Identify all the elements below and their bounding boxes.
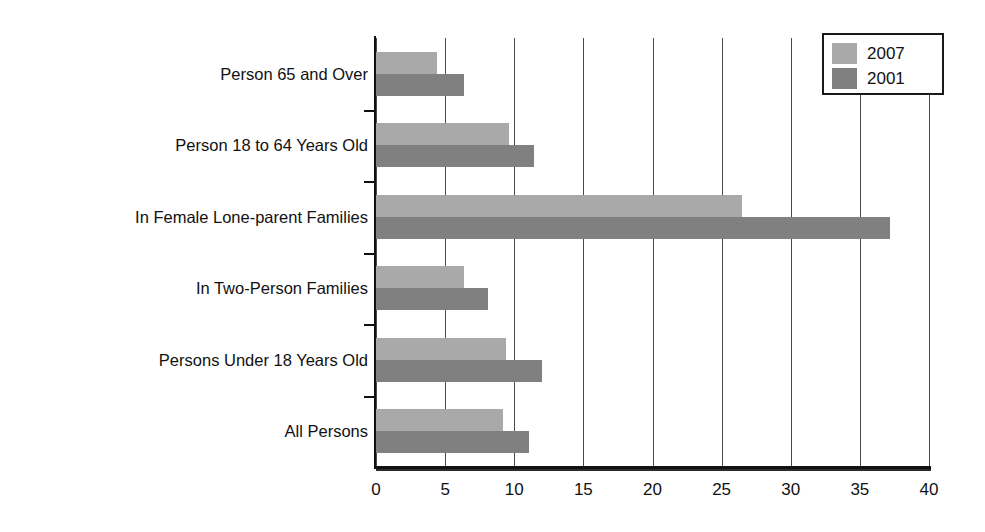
legend-label-2001: 2001 [867,70,905,87]
x-tick-label-0: 0 [356,480,396,500]
category-label-4: Persons Under 18 Years Old [28,351,368,369]
bar-2007-3 [376,266,464,288]
gridline-0 [376,38,377,467]
category-label-3: In Two-Person Families [28,279,368,297]
x-tick-label-35: 35 [840,480,880,500]
category-label-1: Person 18 to 64 Years Old [28,136,368,154]
legend-label-2007: 2007 [867,45,905,62]
category-labels: Person 65 and OverPerson 18 to 64 Years … [20,0,368,532]
legend-swatch-2007 [832,43,857,64]
bar-2007-1 [376,123,509,145]
bar-2001-2 [376,217,890,239]
bar-2007-4 [376,338,506,360]
gridline-35 [860,38,861,467]
legend-entry: 2007 [832,41,942,65]
gridline-10 [514,38,515,467]
bar-2001-0 [376,74,464,96]
gridline-25 [722,38,723,467]
bar-2001-1 [376,145,534,167]
legend: 2007 2001 [822,33,944,95]
legend-swatch-2001 [832,68,857,89]
gridline-40 [929,38,930,467]
bar-2007-0 [376,52,437,74]
x-tick-label-40: 40 [909,480,949,500]
bar-chart: Person 65 and OverPerson 18 to 64 Years … [0,0,985,532]
x-tick-label-15: 15 [563,480,603,500]
x-tick-label-20: 20 [633,480,673,500]
bar-2001-5 [376,431,529,453]
plot-area [376,38,929,467]
x-tick-label-30: 30 [771,480,811,500]
category-label-2: In Female Lone-parent Families [28,208,368,226]
x-axis-line-shadow [376,469,931,471]
gridline-5 [445,38,446,467]
bar-2001-3 [376,288,488,310]
bar-2007-5 [376,409,503,431]
gridline-15 [583,38,584,467]
category-label-0: Person 65 and Over [28,65,368,83]
gridline-30 [791,38,792,467]
bar-2007-2 [376,195,742,217]
x-tick-label-10: 10 [494,480,534,500]
x-tick-label-5: 5 [425,480,465,500]
legend-entry: 2001 [832,66,942,90]
bar-2001-4 [376,360,542,382]
category-label-5: All Persons [28,422,368,440]
gridline-20 [653,38,654,467]
x-tick-label-25: 25 [702,480,742,500]
